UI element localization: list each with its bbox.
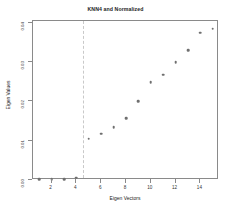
x-axis-title: Eigen Vectors [32,195,218,201]
x-tick-label: 8 [124,185,127,190]
data-point [212,28,215,31]
plot-area [32,20,218,179]
x-tick-mark [75,179,76,183]
y-tick-label: 0.01 [21,140,26,149]
x-tick-mark [125,179,126,183]
data-point [112,126,115,129]
x-tick-mark [51,179,52,183]
x-tick-label: 10 [147,185,152,190]
chart-figure: KNN4 and Normalized Eigen Values 0.000.0… [0,0,231,212]
x-tick-label: 2 [49,185,52,190]
data-point [125,117,128,120]
y-tick-label: 0.02 [21,100,26,109]
x-tick-mark [175,179,176,183]
x-axis: Eigen Vectors 2468101214 [0,179,231,212]
x-tick-mark [199,179,200,183]
data-point [174,61,177,64]
x-tick-label: 12 [172,185,177,190]
x-tick-mark [150,179,151,183]
eigengap-vertical-line [83,21,84,178]
data-point [162,73,165,76]
y-axis-title: Eigen Values [5,69,11,121]
x-tick-label: 4 [74,185,77,190]
chart-title: KNN4 and Normalized [0,5,231,13]
scatter-series [33,21,217,178]
data-point [88,137,91,140]
y-tick-label: 0.03 [21,61,26,70]
data-point [150,81,153,84]
y-tick-label: 0.04 [21,22,26,31]
data-point [100,132,103,135]
x-tick-label: 6 [99,185,102,190]
x-tick-label: 14 [197,185,202,190]
data-point [187,49,190,52]
data-point [137,100,140,103]
data-point [199,31,202,34]
x-tick-mark [100,179,101,183]
